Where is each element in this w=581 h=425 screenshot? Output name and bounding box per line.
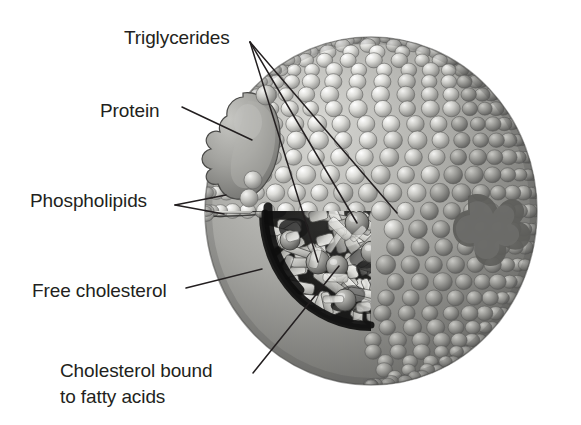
label-cholesterol-bound-to-fatty-acids: Cholesterol bound to fatty acids (60, 358, 213, 410)
label-triglycerides: Triglycerides (124, 25, 230, 50)
label-protein: Protein (100, 98, 160, 123)
label-cholesterol-bound-line2: to fatty acids (60, 384, 213, 410)
label-cholesterol-bound-line1: Cholesterol bound (60, 358, 213, 384)
label-free-cholesterol: Free cholesterol (32, 278, 167, 303)
label-phospholipids: Phospholipids (30, 188, 147, 213)
